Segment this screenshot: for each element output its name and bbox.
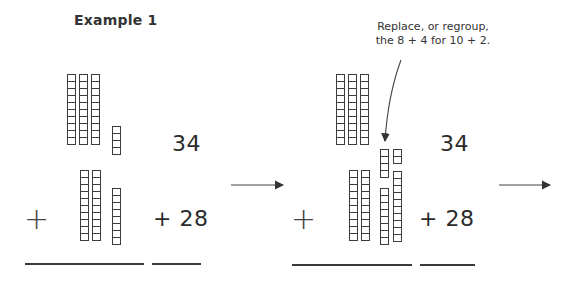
plus-sign: + <box>24 204 49 234</box>
curved-arrow-icon <box>385 60 401 141</box>
blocks-sum-line <box>292 264 412 266</box>
addend-top: 34 <box>172 131 201 156</box>
numeric-sum-line <box>420 264 475 266</box>
tens-rod <box>336 74 345 145</box>
tens-rod <box>79 74 88 145</box>
addend-bottom: + 28 <box>419 206 474 231</box>
tens-rod <box>349 170 358 241</box>
tens-rod <box>361 170 370 241</box>
addend-bottom: + 28 <box>153 206 208 231</box>
ones-cubes <box>112 126 121 155</box>
ones-cubes-group-2 <box>393 149 402 164</box>
addend-top: 34 <box>440 131 469 156</box>
ones-cubes-group-4 <box>380 149 389 178</box>
tens-rod <box>80 170 89 241</box>
tens-rod <box>67 74 76 145</box>
tens-rod <box>92 170 101 241</box>
ones-cubes-group-8 <box>380 188 389 245</box>
tens-rod <box>348 74 357 145</box>
ones-cubes <box>112 188 121 245</box>
plus-sign: + <box>291 204 316 234</box>
tens-rod <box>91 74 100 145</box>
blocks-sum-line <box>25 263 144 265</box>
tens-rod <box>360 74 369 145</box>
numeric-sum-line <box>152 263 201 265</box>
ones-cubes-group-10 <box>393 171 402 242</box>
